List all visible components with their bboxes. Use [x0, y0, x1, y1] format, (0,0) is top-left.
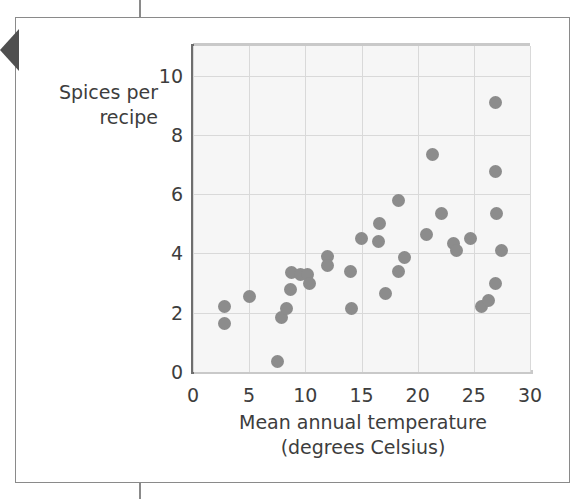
data-point: [482, 294, 495, 307]
data-point: [392, 265, 405, 278]
y-tick-label: 6: [149, 185, 183, 204]
y-tick-label: 0: [149, 363, 183, 382]
y-tick-label: 10: [149, 67, 183, 86]
gridline-vertical: [249, 46, 250, 372]
x-tick-label: 20: [398, 386, 438, 405]
gridline-vertical: [474, 46, 475, 372]
data-point: [218, 317, 231, 330]
y-tick-label: 4: [149, 244, 183, 263]
data-point: [450, 244, 463, 257]
data-point: [464, 232, 477, 245]
data-point: [271, 355, 284, 368]
x-tick-label: 25: [454, 386, 494, 405]
data-point: [490, 207, 503, 220]
gridline-vertical: [305, 46, 306, 372]
data-point: [489, 277, 502, 290]
data-point: [218, 300, 231, 313]
x-axis-title: Mean annual temperature (degrees Celsius…: [173, 410, 553, 460]
scatter-plot-figure: Spices per recipe 0246810 051015202530 M…: [0, 0, 582, 499]
data-point: [321, 259, 334, 272]
x-tick-label: 5: [229, 386, 269, 405]
data-point: [495, 244, 508, 257]
y-tick-label: 2: [149, 304, 183, 323]
gridline-horizontal: [193, 253, 530, 254]
y-tick-label: 8: [149, 126, 183, 145]
data-point: [489, 165, 502, 178]
gridline-horizontal: [193, 76, 530, 77]
x-tick-label: 30: [510, 386, 550, 405]
x-tick-label: 0: [173, 386, 213, 405]
data-point: [345, 302, 358, 315]
data-point: [426, 148, 439, 161]
y-axis-title: Spices per recipe: [26, 80, 158, 130]
data-point: [435, 207, 448, 220]
gridline-horizontal: [193, 194, 530, 195]
gridline-horizontal: [193, 135, 530, 136]
data-point: [373, 217, 386, 230]
data-point: [489, 96, 502, 109]
data-point: [355, 232, 368, 245]
data-point: [243, 290, 256, 303]
gridline-vertical: [193, 46, 194, 372]
data-point: [303, 277, 316, 290]
plot-area: [193, 46, 530, 372]
gridline-vertical: [362, 46, 363, 372]
data-point: [344, 265, 357, 278]
data-point: [420, 228, 433, 241]
data-point: [372, 235, 385, 248]
data-point: [284, 283, 297, 296]
data-point: [280, 302, 293, 315]
x-tick-label: 10: [285, 386, 325, 405]
data-point: [392, 194, 405, 207]
x-tick-label: 15: [342, 386, 382, 405]
data-point: [398, 251, 411, 264]
data-point: [379, 287, 392, 300]
gridline-vertical: [418, 46, 419, 372]
gridline-vertical: [530, 46, 531, 372]
